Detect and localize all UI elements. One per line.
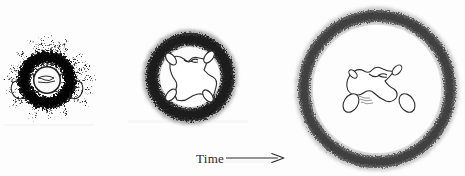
right-arrow-icon: [226, 152, 286, 164]
stage-3-expanded-ring: [293, 2, 463, 176]
stage-1-drawing: [0, 18, 100, 118]
stage-1-collapsed-ring: [0, 18, 100, 118]
stage-2-drawing: [133, 22, 248, 137]
stage-2-intermediate-ring: [133, 22, 248, 137]
stage-3-drawing: [293, 2, 463, 176]
time-axis: Time: [196, 146, 286, 170]
scan-artifact: [4, 124, 94, 126]
ring-evolution-figure: Time: [0, 0, 465, 176]
time-axis-label: Time: [196, 152, 224, 165]
